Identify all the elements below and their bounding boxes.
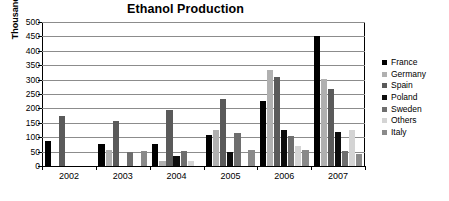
legend-swatch-icon	[382, 60, 387, 65]
y-axis-tick-label: 400	[6, 47, 40, 55]
bar-slot	[220, 22, 226, 166]
y-axis-tick-label: 150	[6, 119, 40, 127]
bar-poland-2004	[173, 156, 179, 166]
bar-slot	[335, 22, 341, 166]
bar-slot	[134, 22, 140, 166]
legend-swatch-icon	[382, 118, 387, 123]
bar-slot	[248, 22, 254, 166]
bar-slot	[159, 22, 165, 166]
bar-slot	[188, 22, 194, 166]
bar-slot	[227, 22, 233, 166]
bar-others-2006	[295, 146, 301, 166]
bar-group	[311, 22, 365, 166]
bar-group	[96, 22, 150, 166]
bar-slot	[106, 22, 112, 166]
legend-item-sweden[interactable]: Sweden	[382, 103, 449, 115]
legend-swatch-icon	[382, 130, 387, 135]
bar-spain-2004	[166, 110, 172, 166]
bar-slot	[120, 22, 126, 166]
x-axis-tick-label: 2007	[311, 170, 365, 186]
x-axis-tick-label: 2002	[42, 170, 96, 186]
bar-slot	[52, 22, 58, 166]
bar-slot	[213, 22, 219, 166]
bar-slot	[302, 22, 308, 166]
legend-item-germany[interactable]: Germany	[382, 69, 449, 81]
bar-slot	[98, 22, 104, 166]
legend-label: Spain	[391, 81, 413, 90]
y-axis-tick-label: 300	[6, 76, 40, 84]
bar-spain-2002	[59, 116, 65, 166]
bar-slot	[342, 22, 348, 166]
y-axis-tick-label: 0	[6, 162, 40, 170]
x-axis-tick-label: 2005	[203, 170, 257, 186]
legend-item-france[interactable]: France	[382, 57, 449, 69]
bar-slot	[328, 22, 334, 166]
bar-france-2004	[152, 144, 158, 166]
legend-item-poland[interactable]: Poland	[382, 92, 449, 104]
bar-spain-2007	[328, 89, 334, 166]
bar-slot	[349, 22, 355, 166]
bar-group	[42, 22, 96, 166]
legend-label: Poland	[391, 93, 417, 102]
bar-italy-2006	[302, 150, 308, 166]
legend-swatch-icon	[382, 95, 387, 100]
bar-sweden-2003	[127, 152, 133, 166]
y-axis-tick-label: 450	[6, 32, 40, 40]
legend-item-spain[interactable]: Spain	[382, 80, 449, 92]
bar-sweden-2006	[288, 136, 294, 166]
legend-label: Others	[391, 116, 417, 125]
legend-label: Sweden	[391, 105, 422, 114]
bar-slot	[59, 22, 65, 166]
bar-slot	[181, 22, 187, 166]
bar-germany-2005	[213, 130, 219, 166]
y-axis-ticks: 500450400350300250200150100500	[0, 22, 40, 167]
bar-sweden-2004	[181, 151, 187, 166]
bar-groups	[42, 22, 365, 166]
legend-label: France	[391, 58, 417, 67]
bar-slot	[141, 22, 147, 166]
x-axis-tick-label: 2003	[96, 170, 150, 186]
bar-slot	[73, 22, 79, 166]
bar-slot	[314, 22, 320, 166]
bar-france-2007	[314, 36, 320, 166]
bar-slot	[267, 22, 273, 166]
bar-slot	[173, 22, 179, 166]
bar-france-2005	[206, 135, 212, 166]
x-axis-tick-label: 2004	[150, 170, 204, 186]
bar-france-2006	[260, 101, 266, 166]
bar-slot	[152, 22, 158, 166]
bar-italy-2005	[248, 150, 254, 166]
bar-italy-2007	[356, 154, 362, 166]
bar-slot	[113, 22, 119, 166]
legend-item-italy[interactable]: Italy	[382, 127, 449, 139]
plot-area	[42, 22, 365, 166]
bar-poland-2005	[227, 152, 233, 166]
bar-slot	[234, 22, 240, 166]
y-axis-tick-label: 350	[6, 61, 40, 69]
bar-germany-2007	[321, 79, 327, 166]
x-axis-labels: 200220032004200520062007	[42, 170, 365, 186]
bar-slot	[87, 22, 93, 166]
bar-group	[150, 22, 204, 166]
y-axis-tick-label: 250	[6, 90, 40, 98]
y-axis-tick-label: 200	[6, 104, 40, 112]
bar-slot	[206, 22, 212, 166]
bar-slot	[260, 22, 266, 166]
bar-slot	[127, 22, 133, 166]
bar-poland-2006	[281, 130, 287, 166]
bar-slot	[295, 22, 301, 166]
bar-poland-2007	[335, 132, 341, 166]
bar-sweden-2007	[342, 151, 348, 166]
x-axis-tickmark	[365, 166, 366, 170]
legend-item-others[interactable]: Others	[382, 115, 449, 127]
bar-italy-2003	[141, 151, 147, 166]
legend: FranceGermanySpainPolandSwedenOthersItal…	[382, 57, 449, 138]
legend-label: Italy	[391, 128, 407, 137]
legend-label: Germany	[391, 70, 426, 79]
bar-spain-2005	[220, 99, 226, 166]
bar-slot	[195, 22, 201, 166]
chart-title: Ethanol Production	[0, 2, 371, 16]
legend-swatch-icon	[382, 107, 387, 112]
bar-slot	[66, 22, 72, 166]
bar-slot	[241, 22, 247, 166]
